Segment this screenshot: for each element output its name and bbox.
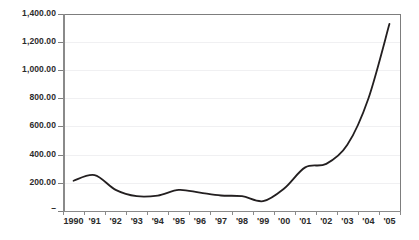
- x-axis-label-1991: '91: [84, 216, 105, 227]
- x-axis-label-2001: '01: [295, 216, 316, 227]
- y-axis-label-200: 200.00: [29, 178, 56, 187]
- gridline-600: [63, 126, 400, 127]
- x-axis-label-2003: '03: [337, 216, 358, 227]
- x-axis-tick: [358, 211, 359, 215]
- gridline-200: [63, 183, 400, 184]
- x-axis-label-1993: '93: [126, 216, 147, 227]
- y-axis-labels: 1,400.00 1,200.00 1,000.00 800.00 600.00…: [0, 0, 56, 240]
- x-axis-tick: [400, 211, 401, 215]
- x-axis-tick: [337, 211, 338, 215]
- x-axis-tick: [295, 211, 296, 215]
- x-axis-label-2005: '05: [379, 216, 400, 227]
- x-axis-tick: [126, 211, 127, 215]
- plot-frame-top-border: [63, 14, 400, 15]
- y-axis-label-800: 800.00: [29, 93, 56, 102]
- y-axis-label-1400: 1,400.00: [22, 9, 56, 18]
- x-axis-label-1992: '92: [105, 216, 126, 227]
- x-axis-tick: [147, 211, 148, 215]
- line-chart: 1,400.00 1,200.00 1,000.00 800.00 600.00…: [0, 0, 419, 240]
- x-axis-label-1994: '94: [147, 216, 168, 227]
- gridline-1200: [63, 42, 400, 43]
- x-axis-tick: [189, 211, 190, 215]
- x-axis-label-2004: '04: [358, 216, 379, 227]
- gridline-400: [63, 155, 400, 156]
- x-axis-tick: [105, 211, 106, 215]
- x-axis-label-1996: '96: [189, 216, 210, 227]
- x-axis-tick: [210, 211, 211, 215]
- x-axis-tick: [63, 211, 64, 215]
- y-axis-label-1200: 1,200.00: [22, 37, 56, 46]
- x-axis-label-1995: '95: [168, 216, 189, 227]
- x-axis-tick: [379, 211, 380, 215]
- x-axis-label-1990: 1990: [63, 216, 84, 227]
- y-axis-label-400: 400.00: [29, 150, 56, 159]
- y-axis-label-zero: –: [51, 204, 56, 213]
- plot-frame-right-border: [400, 14, 401, 211]
- x-axis-label-1998: '98: [232, 216, 253, 227]
- y-axis-label-600: 600.00: [29, 121, 56, 130]
- gridline-800: [63, 98, 400, 99]
- x-axis-tick: [253, 211, 254, 215]
- y-axis-line: [63, 14, 65, 211]
- x-axis-tick: [168, 211, 169, 215]
- x-axis-label-2002: '02: [316, 216, 337, 227]
- x-axis-tick: [84, 211, 85, 215]
- x-axis-label-1999: '99: [253, 216, 274, 227]
- x-axis-tick: [274, 211, 275, 215]
- y-axis-label-1000: 1,000.00: [22, 65, 56, 74]
- x-axis-label-1997: '97: [210, 216, 231, 227]
- x-axis-tick: [232, 211, 233, 215]
- x-axis-label-2000: '00: [274, 216, 295, 227]
- gridline-1000: [63, 70, 400, 71]
- x-axis-tick: [316, 211, 317, 215]
